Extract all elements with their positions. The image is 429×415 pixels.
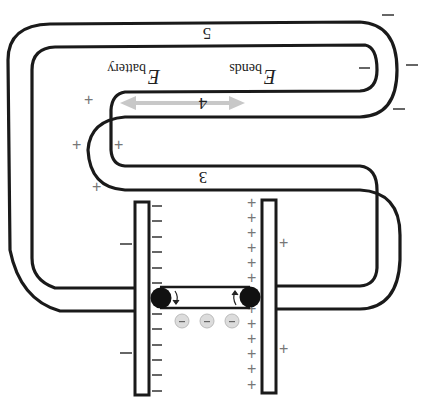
left-roller [151,288,172,309]
section-label-5: 5 [203,24,212,43]
svg-text:+: + [247,376,256,393]
field-arrow [120,96,245,110]
svg-text:+: + [84,91,93,108]
section-label-4: 4 [198,94,207,113]
svg-text:4: 4 [198,94,207,113]
right-plate [262,200,276,393]
svg-text:+: + [247,269,256,286]
svg-text:battery: battery [107,61,146,76]
circuit-diagram: + + + + + + + + + + + + + + + + + + [0,0,429,415]
e-bends-label: E bends [229,61,277,88]
electron [200,314,214,328]
svg-text:E: E [148,66,161,88]
electrons [175,314,239,328]
belt [160,287,250,308]
electron [175,314,189,328]
svg-text:+: + [114,136,123,153]
svg-text:+: + [92,178,101,195]
svg-text:+: + [279,340,288,357]
svg-text:E: E [264,66,277,88]
rotation-arrows [173,291,238,305]
svg-text:5: 5 [203,24,212,43]
section-label-3: 3 [199,168,208,187]
e-battery-label: E battery [107,61,161,88]
svg-text:+: + [72,136,81,153]
left-plate [135,202,149,395]
svg-text:3: 3 [199,168,208,187]
electron [225,314,239,328]
wire-inner-edge [32,45,377,288]
svg-text:+: + [247,360,256,377]
right-roller [240,287,261,308]
svg-text:bends: bends [229,61,262,76]
svg-text:+: + [279,234,288,251]
